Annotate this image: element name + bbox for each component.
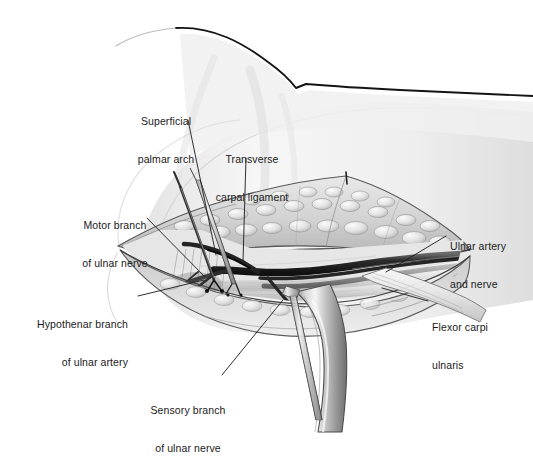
label-line-1: Flexor carpi	[432, 321, 504, 334]
label-line-2: ulnaris	[432, 359, 504, 372]
label-line-2: of ulnar nerve	[76, 257, 154, 270]
label-line-1: Transverse	[213, 153, 291, 166]
label-motor-branch-of-ulnar-nerve: Motor branch of ulnar nerve	[76, 194, 154, 294]
label-line-1: Motor branch	[76, 219, 154, 232]
label-line-1: Sensory branch	[144, 404, 232, 417]
label-line-2: and nerve	[450, 278, 522, 291]
label-sensory-branch-of-ulnar-nerve: Sensory branch of ulnar nerve	[144, 379, 232, 456]
label-line-1: Superficial	[134, 115, 198, 128]
label-line-2: palmar arch	[134, 153, 198, 166]
label-line-2: of ulnar nerve	[144, 442, 232, 455]
label-transverse-carpal-ligament: Transverse carpal ligament	[213, 128, 291, 228]
label-line-1: Hypothenar branch	[16, 318, 128, 331]
label-line-2: carpal ligament	[213, 191, 291, 204]
label-line-1: Ulnar artery	[450, 240, 522, 253]
label-flexor-carpi-ulnaris: Flexor carpi ulnaris	[432, 296, 504, 396]
label-line-2: of ulnar artery	[16, 356, 128, 369]
label-superficial-palmar-arch: Superficial palmar arch	[134, 90, 198, 190]
label-hypothenar-branch-of-ulnar-artery: Hypothenar branch of ulnar artery	[16, 293, 128, 393]
